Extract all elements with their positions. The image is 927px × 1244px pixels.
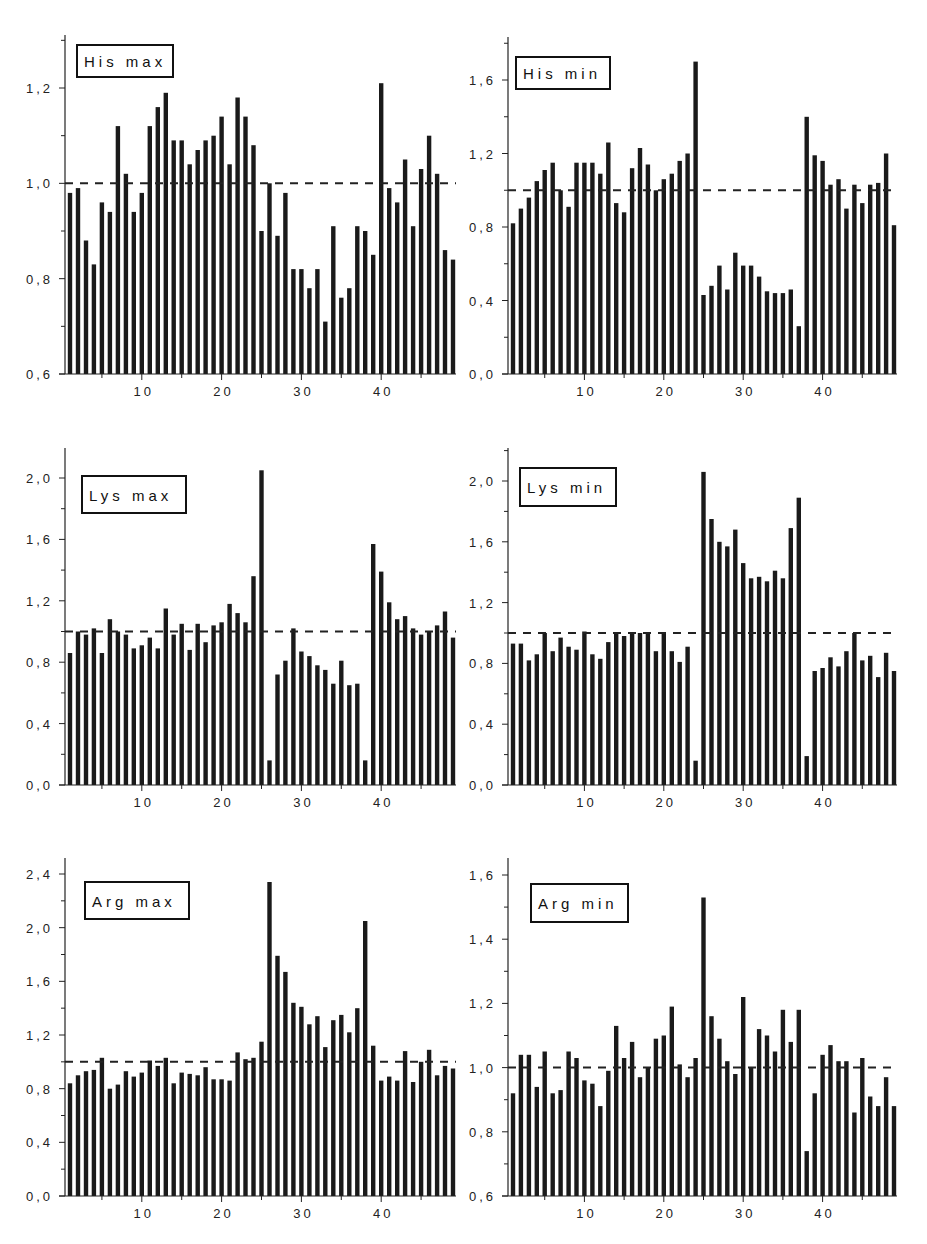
y-tick-label: 0,6 (469, 1189, 496, 1204)
bar (860, 1058, 864, 1196)
bar (852, 1113, 856, 1197)
bar (551, 1093, 555, 1196)
bar (781, 1010, 785, 1196)
bar (693, 1058, 697, 1196)
bar (741, 997, 745, 1196)
bars (511, 898, 896, 1197)
bar (622, 1058, 626, 1196)
bar (773, 1052, 777, 1197)
bar (511, 1093, 515, 1196)
bar (590, 1084, 594, 1196)
bar (789, 1042, 793, 1196)
bar (701, 898, 705, 1197)
y-tick-label: 1,2 (469, 996, 496, 1011)
bar (558, 1090, 562, 1196)
bar (519, 1055, 523, 1196)
bar (630, 1042, 634, 1196)
bar (717, 1039, 721, 1196)
bar (805, 1151, 809, 1196)
bar (654, 1039, 658, 1196)
chart-arg-min: 0,60,81,01,21,41,610203040Arg min (0, 0, 927, 1244)
bar (797, 1010, 801, 1196)
bar (678, 1064, 682, 1196)
legend: Arg min (531, 884, 628, 922)
x-tick-label: 30 (735, 1206, 755, 1221)
bar (868, 1097, 872, 1197)
bar (813, 1093, 817, 1196)
bar (614, 1026, 618, 1196)
y-tick-label: 1,4 (469, 932, 496, 947)
bar (749, 1068, 753, 1196)
bar (757, 1029, 761, 1196)
bar (892, 1106, 896, 1196)
bar (574, 1058, 578, 1196)
bar (646, 1068, 650, 1196)
x-tick-label: 10 (576, 1206, 596, 1221)
y-tick-label: 1,6 (469, 868, 496, 883)
bar (543, 1052, 547, 1197)
bar (876, 1106, 880, 1196)
bar (662, 1036, 666, 1197)
legend-label: Arg min (538, 895, 618, 912)
bar (527, 1055, 531, 1196)
bar (582, 1080, 586, 1196)
bar (836, 1061, 840, 1196)
bar (606, 1071, 610, 1196)
y-tick-label: 0,8 (469, 1125, 496, 1140)
y-tick-label: 1,0 (469, 1061, 496, 1076)
bar (820, 1055, 824, 1196)
x-tick-label: 40 (814, 1206, 834, 1221)
bar (670, 1007, 674, 1196)
bar (566, 1052, 570, 1197)
bar (638, 1077, 642, 1196)
bar (884, 1077, 888, 1196)
bar (725, 1061, 729, 1196)
bar (844, 1061, 848, 1196)
bar (535, 1087, 539, 1196)
bar (685, 1077, 689, 1196)
x-tick-label: 20 (656, 1206, 676, 1221)
bar (598, 1106, 602, 1196)
bar (765, 1036, 769, 1197)
bar (733, 1074, 737, 1196)
bar (709, 1016, 713, 1196)
plot-area: 0,60,81,01,21,41,610203040Arg min (469, 858, 897, 1221)
